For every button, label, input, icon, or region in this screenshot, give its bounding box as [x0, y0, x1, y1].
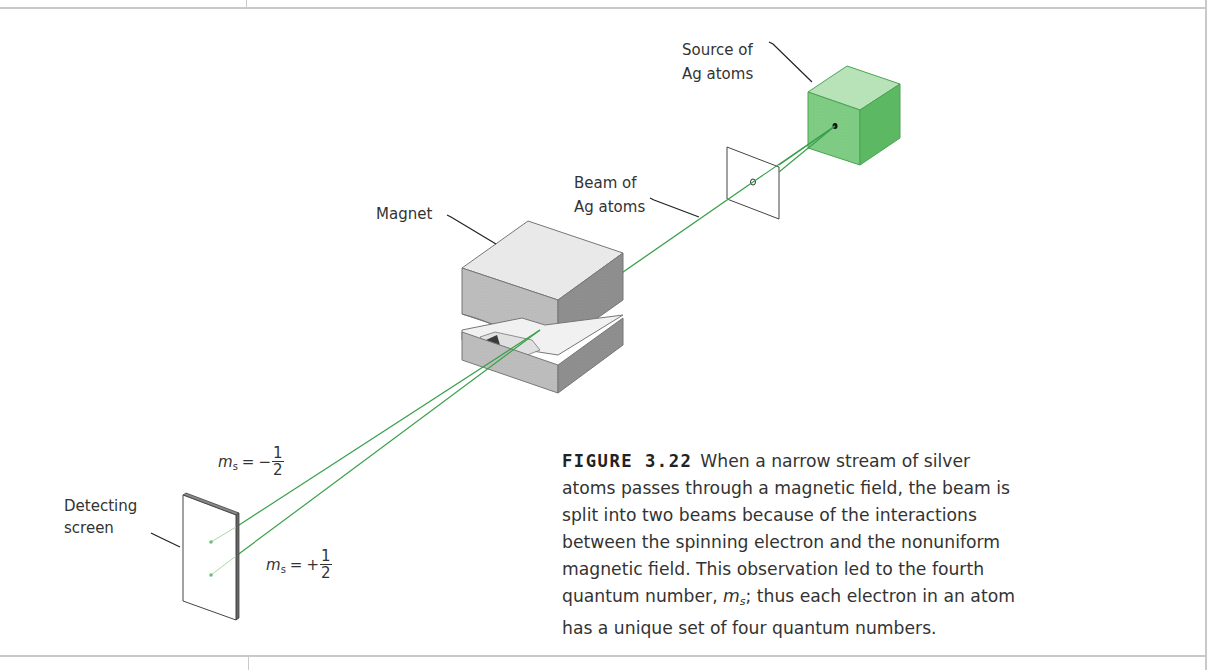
- screen-label-line1: Detecting: [64, 496, 137, 516]
- source-cube: [808, 66, 900, 165]
- ms-subscript: s: [233, 461, 238, 472]
- screen-label-line2: screen: [64, 518, 137, 538]
- ms-subscript: s: [281, 564, 286, 575]
- magnet-label: Magnet: [376, 204, 432, 224]
- figure-number: FIGURE 3.22: [562, 451, 692, 471]
- ms-symbol: m: [218, 453, 233, 471]
- figure-caption: FIGURE 3.22When a narrow stream of silve…: [562, 448, 1022, 642]
- denominator: 2: [273, 462, 283, 478]
- caption-text-part1: When a narrow stream of silver atoms pas…: [562, 451, 1010, 606]
- magnet-lower: [462, 315, 623, 393]
- source-label: Source of Ag atoms: [682, 40, 753, 84]
- fraction: 1 2: [272, 445, 284, 478]
- ms-symbol: m: [266, 556, 281, 574]
- beam-label-line2: Ag atoms: [574, 197, 645, 217]
- caption-ms-symbol: m: [723, 586, 740, 606]
- screen-label: Detecting screen: [64, 496, 137, 538]
- spin-label-minus-half: ms = − 1 2: [218, 445, 284, 478]
- detecting-screen: [183, 493, 239, 620]
- source-label-line1: Source of: [682, 40, 753, 60]
- fraction: 1 2: [320, 548, 332, 581]
- equals-sign: =: [242, 453, 255, 471]
- source-label-line2: Ag atoms: [682, 64, 753, 84]
- numerator: 1: [272, 445, 284, 462]
- split-beams: [236, 330, 540, 556]
- spin-label-plus-half: ms = + 1 2: [266, 548, 332, 581]
- equals-sign: =: [290, 556, 303, 574]
- denominator: 2: [321, 565, 331, 581]
- source-beams: [753, 126, 835, 182]
- beam-label-line1: Beam of: [574, 173, 645, 193]
- beam-label: Beam of Ag atoms: [574, 173, 645, 217]
- sign: +: [306, 556, 319, 574]
- slit-plate: [727, 147, 779, 219]
- sign: −: [258, 453, 271, 471]
- numerator: 1: [320, 548, 332, 565]
